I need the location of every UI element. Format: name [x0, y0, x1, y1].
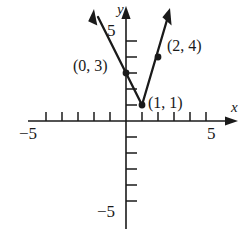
y-axis-label: y — [117, 2, 124, 17]
x-axis-arrowhead-icon — [225, 116, 238, 125]
curve-left-arrowhead-icon — [88, 9, 97, 25]
x-axis-label: x — [231, 100, 238, 115]
x-axis-ticks-negative — [46, 112, 110, 121]
y-tick-label-pos-5: 5 — [107, 22, 116, 39]
graph-figure: y x −5 5 5 −5 (0, 3) (1, 1) (2, 4) — [0, 0, 249, 229]
x-tick-label-pos-5: 5 — [207, 125, 216, 142]
coordinate-plane — [0, 0, 249, 229]
y-tick-label-neg-5: −5 — [97, 203, 115, 220]
point-label-1-1: (1, 1) — [148, 95, 183, 111]
point-label-0-3: (0, 3) — [73, 58, 108, 74]
point-label-2-4: (2, 4) — [167, 38, 202, 54]
x-axis-ticks-positive — [142, 112, 206, 121]
point-marker-1-1 — [139, 102, 146, 109]
curve-right-branch — [142, 20, 167, 105]
x-tick-label-neg-5: −5 — [19, 125, 37, 142]
point-marker-0-3 — [123, 70, 130, 77]
y-axis — [121, 6, 137, 229]
point-marker-2-4 — [155, 54, 162, 61]
y-axis-ticks-negative — [126, 137, 137, 201]
